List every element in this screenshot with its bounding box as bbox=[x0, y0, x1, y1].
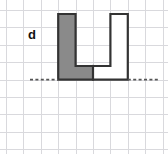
shape-svg bbox=[0, 0, 168, 154]
shape-figure bbox=[0, 0, 168, 154]
figure-canvas: d bbox=[0, 0, 168, 154]
figure-label: d bbox=[28, 28, 36, 41]
